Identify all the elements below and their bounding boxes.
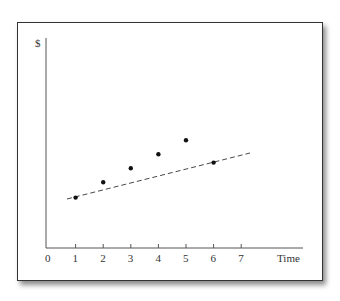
x-ticks: 01234567 bbox=[45, 244, 244, 264]
scatter-chart: $ Time 01234567 bbox=[0, 0, 340, 301]
trend-line bbox=[67, 153, 250, 199]
data-point bbox=[129, 166, 133, 170]
x-tick-label: 5 bbox=[183, 252, 189, 264]
data-point bbox=[211, 160, 215, 164]
data-points bbox=[73, 138, 215, 200]
x-axis-label: Time bbox=[277, 252, 300, 264]
data-point bbox=[184, 138, 188, 142]
x-tick-label: 6 bbox=[211, 252, 217, 264]
y-axis-label: $ bbox=[35, 37, 41, 49]
x-tick-label: 1 bbox=[73, 252, 79, 264]
data-point bbox=[156, 152, 160, 156]
x-tick-label: 0 bbox=[45, 252, 51, 264]
x-tick-label: 2 bbox=[100, 252, 106, 264]
x-tick-label: 3 bbox=[128, 252, 134, 264]
data-point bbox=[73, 195, 77, 199]
data-point bbox=[101, 180, 105, 184]
x-tick-label: 7 bbox=[238, 252, 244, 264]
x-tick-label: 4 bbox=[155, 252, 161, 264]
